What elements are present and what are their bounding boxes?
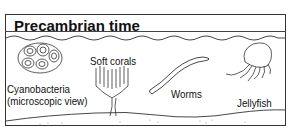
worms-label: Worms [171, 88, 202, 100]
jellyfish-icon [226, 43, 272, 81]
water-surface-icon [6, 36, 286, 40]
scene-illustration [0, 0, 295, 134]
cyanobacteria-label-line2: (microscopic view) [7, 95, 87, 107]
seafloor-icon [6, 110, 286, 121]
jellyfish-label: Jellyfish [237, 97, 272, 109]
cyanobacteria-icon [18, 43, 62, 73]
cyanobacteria-label: Cyanobacteria (microscopic view) [7, 83, 87, 107]
soft-corals-label: Soft corals [90, 55, 136, 67]
soft-coral-icon [96, 66, 128, 116]
cyanobacteria-label-line1: Cyanobacteria [7, 83, 87, 95]
